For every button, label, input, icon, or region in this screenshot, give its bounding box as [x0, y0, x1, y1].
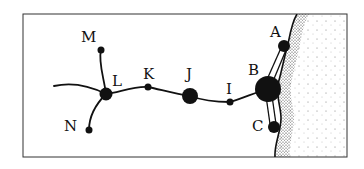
node-C	[268, 121, 280, 133]
node-J	[182, 88, 198, 104]
node-B	[255, 76, 281, 102]
label-N: N	[64, 117, 77, 135]
node-I	[227, 99, 234, 106]
node-N	[86, 127, 93, 134]
label-J: J	[184, 65, 192, 83]
label-A: A	[269, 23, 281, 41]
label-M: M	[81, 28, 96, 46]
label-B: B	[248, 61, 259, 79]
node-L	[100, 88, 113, 101]
node-K	[145, 84, 152, 91]
node-M	[98, 47, 105, 54]
node-A	[278, 40, 290, 52]
label-C: C	[252, 117, 263, 135]
label-K: K	[143, 65, 155, 83]
label-L: L	[112, 72, 122, 90]
label-I: I	[226, 80, 232, 98]
network-map-diagram: A B C I J K L M N	[0, 0, 364, 169]
